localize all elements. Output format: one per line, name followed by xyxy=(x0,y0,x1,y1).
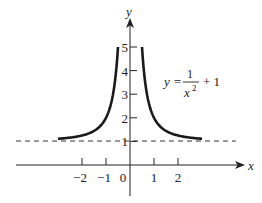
equation-exponent: 2 xyxy=(192,83,197,93)
x-ticks: −2−1012 xyxy=(73,158,181,185)
equation-numerator: 1 xyxy=(187,67,193,81)
x-tick-label: −1 xyxy=(97,170,111,185)
x-tick-label: 2 xyxy=(175,170,182,185)
x-tick-label: 1 xyxy=(151,170,158,185)
y-tick-label: 1 xyxy=(122,134,129,149)
y-tick-label: 2 xyxy=(122,111,129,126)
y-ticks: 12345 xyxy=(122,40,138,149)
equation-rhs: + 1 xyxy=(203,74,220,89)
equation-label: y = 1 x 2 + 1 xyxy=(162,67,220,100)
equation-lhs: y = xyxy=(162,74,182,89)
equation-denominator: x xyxy=(183,85,190,100)
x-axis-label: x xyxy=(247,158,254,173)
x-tick-label: −2 xyxy=(73,170,87,185)
x-tick-label: 0 xyxy=(120,170,127,185)
y-tick-label: 4 xyxy=(122,64,129,79)
y-tick-label: 3 xyxy=(122,87,129,102)
curve-left-branch xyxy=(58,47,118,139)
function-graph: x y −2−1012 12345 y = 1 x 2 + 1 xyxy=(0,0,262,203)
y-tick-label: 5 xyxy=(122,40,129,55)
y-axis-label: y xyxy=(124,4,132,19)
